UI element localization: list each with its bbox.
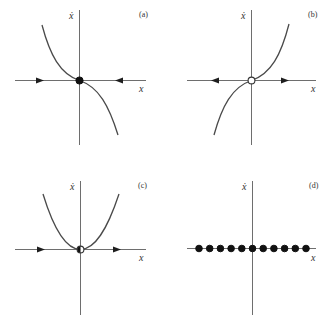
- fixed-point-icon: [228, 245, 235, 252]
- panel-c-y-axis-label: ẋ: [69, 181, 75, 192]
- panel-b-arrow-right-icon: [281, 78, 289, 84]
- panel-b-y-axis-label: ẋ: [240, 10, 246, 21]
- panel-d-label: (d): [309, 181, 319, 190]
- panel-b: ẋ x (b): [187, 10, 318, 145]
- fixed-point-icon: [217, 245, 224, 252]
- fixed-point-icon: [281, 245, 288, 252]
- panel-c-arrow-right-icon: [37, 247, 45, 253]
- fixed-point-icon: [206, 245, 213, 252]
- panel-b-label: (b): [308, 10, 318, 19]
- panel-d-fixed-points: [196, 245, 310, 252]
- fixed-point-icon: [292, 245, 299, 252]
- fixed-point-icon: [303, 245, 310, 252]
- fixed-point-icon: [271, 245, 278, 252]
- fixed-point-icon: [239, 245, 246, 252]
- panel-a-arrow-left-icon: [115, 78, 123, 84]
- panel-b-x-axis-label: x: [310, 83, 316, 94]
- fixed-point-icon: [249, 245, 256, 252]
- panel-c-half-stable-fixed-point-icon: [77, 246, 84, 253]
- fixed-point-icon: [196, 245, 203, 252]
- phase-portrait-figure: ẋ x (a) ẋ x (b) ẋ x (c): [0, 0, 335, 331]
- panel-a-label: (a): [139, 10, 148, 19]
- panel-c-label: (c): [138, 181, 147, 190]
- panel-c-arrow-right-icon: [113, 247, 121, 253]
- panel-a-stable-fixed-point-icon: [76, 77, 83, 84]
- panel-a: ẋ x (a): [15, 10, 148, 145]
- panel-a-y-axis-label: ẋ: [68, 10, 74, 21]
- panel-b-arrow-left-icon: [211, 78, 219, 84]
- panel-d: ẋ x (d): [187, 181, 319, 315]
- panel-c: ẋ x (c): [15, 181, 147, 315]
- panel-d-x-axis-label: x: [310, 252, 316, 263]
- panel-a-arrow-right-icon: [36, 78, 44, 84]
- panel-d-y-axis-label: ẋ: [241, 181, 247, 192]
- panel-b-unstable-fixed-point-icon: [248, 77, 255, 84]
- panel-a-x-axis-label: x: [138, 83, 144, 94]
- fixed-point-icon: [260, 245, 267, 252]
- panel-c-x-axis-label: x: [138, 252, 144, 263]
